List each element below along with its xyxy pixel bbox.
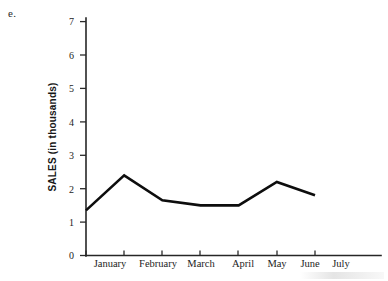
line-chart: 7 6 5 4 3 2 1 0 SALES (in thousands)	[0, 0, 388, 281]
y-tick-label-6: 6	[69, 50, 74, 61]
x-tick-label-january: January	[94, 258, 127, 269]
figure-container: e. 7 6 5 4 3 2 1 0	[0, 0, 388, 281]
sales-line-series	[86, 175, 315, 210]
x-tick-label-july: July	[332, 258, 350, 269]
y-axis-title: SALES (in thousands)	[47, 83, 58, 192]
x-tick-label-may: May	[267, 258, 287, 269]
x-tick-label-february: February	[139, 258, 178, 269]
y-tick-label-2: 2	[69, 184, 74, 195]
y-tick-label-1: 1	[69, 217, 74, 228]
y-tick-label-4: 4	[69, 117, 74, 128]
y-tick-label-0: 0	[69, 250, 74, 261]
x-tick-label-march: March	[187, 258, 215, 269]
y-tick-marks	[80, 22, 86, 256]
x-axis-group: January February March April May June Ju…	[86, 251, 381, 270]
y-tick-labels: 7 6 5 4 3 2 1 0	[69, 16, 74, 261]
page-edge-smudge	[300, 272, 384, 279]
y-tick-label-7: 7	[69, 16, 74, 27]
x-tick-label-june: June	[300, 258, 320, 269]
x-tick-labels: January February March April May June Ju…	[94, 258, 351, 269]
y-tick-label-5: 5	[69, 83, 74, 94]
y-tick-label-3: 3	[69, 150, 74, 161]
x-tick-label-april: April	[232, 258, 254, 269]
y-axis-group: 7 6 5 4 3 2 1 0 SALES (in thousands)	[47, 16, 86, 261]
